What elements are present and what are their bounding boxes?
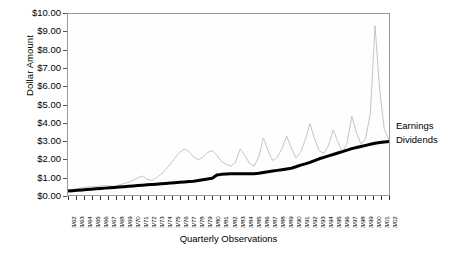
x-axis-tick-label: 3/66 [103,216,109,228]
x-axis-tick-mark [253,196,254,200]
x-axis-tick-label: 3/72 [151,216,157,228]
chart-container: Dollar Amount $0.00$1.00$2.00$3.00$4.00$… [0,0,452,258]
plot-series-svg [68,14,389,195]
x-axis-tick-mark [365,196,366,200]
x-axis-tick-mark [261,196,262,200]
x-axis-tick-label: 3/92 [312,216,318,228]
x-axis-tick-mark [156,196,157,200]
x-axis-tick-label: 3/84 [248,216,254,228]
x-axis-tick-label: 3/83 [240,216,246,228]
x-axis-tick-mark [317,196,318,200]
x-axis-tick-label: 3/95 [336,216,342,228]
y-axis-tick-label: $2.00 [13,154,61,164]
y-axis-tick-mark [63,141,67,142]
y-axis-tick-label: $0.00 [13,191,61,201]
x-axis-tick-label: 3/76 [183,216,189,228]
x-axis-tick-label: 3/98 [360,216,366,228]
x-axis-tick-label: 3/93 [320,216,326,228]
y-axis-tick-label: $10.00 [13,8,61,18]
x-axis-tick-label: 3/70 [135,216,141,228]
x-axis-title: Quarterly Observations [67,233,390,244]
legend-entry-dividends: Dividends [396,133,452,147]
x-axis-tick-label: 3/97 [352,216,358,228]
x-axis-tick-label: 3/78 [199,216,205,228]
x-axis-tick-label: 3/90 [296,216,302,228]
x-axis-tick-label: 3/64 [87,216,93,228]
x-axis-tick-mark [293,196,294,200]
y-axis-tick-mark [63,86,67,87]
x-axis-tick-mark [68,196,69,200]
x-axis-tick-label: 3/68 [119,216,125,228]
x-axis-tick-label: 3/74 [167,216,173,228]
x-axis-tick-label: 3/91 [304,216,310,228]
x-axis-tick-label: 3/00 [376,216,382,228]
x-axis-tick-mark [301,196,302,200]
x-axis-tick-label: 3/87 [272,216,278,228]
x-axis-tick-label: 3/65 [95,216,101,228]
x-axis-tick-mark [124,196,125,200]
x-axis-tick-label: 3/79 [207,216,213,228]
x-axis-tick-label: 3/88 [280,216,286,228]
x-axis-tick-label: 3/94 [328,216,334,228]
x-axis-tick-mark [164,196,165,200]
x-axis-tick-label: 3/86 [264,216,270,228]
x-axis-tick-mark [84,196,85,200]
x-axis-tick-mark [108,196,109,200]
x-axis-tick-mark [373,196,374,200]
series-line-earnings [68,26,389,190]
x-axis-tick-label: 3/77 [191,216,197,228]
y-axis-tick-mark [63,123,67,124]
chart-legend: EarningsDividends [396,119,452,147]
y-axis-tick-mark [63,13,67,14]
y-axis-tick-mark [63,68,67,69]
x-axis-tick-label: 3/02 [392,216,398,228]
x-axis-tick-mark [148,196,149,200]
x-axis-tick-label: 3/89 [288,216,294,228]
y-axis-tick-mark [63,31,67,32]
x-axis-tick-mark [212,196,213,200]
y-axis-tick-mark [63,50,67,51]
x-axis-tick-labels: 3/623/633/643/653/663/673/683/693/703/71… [67,201,390,231]
x-axis-tick-mark [381,196,382,200]
x-axis-tick-label: 3/01 [384,216,390,228]
x-axis-tick-label: 3/67 [111,216,117,228]
x-axis-tick-label: 3/73 [159,216,165,228]
x-axis-tick-label: 3/82 [232,216,238,228]
x-axis-tick-mark [309,196,310,200]
y-axis-tick-mark [63,196,67,197]
x-axis-tick-mark [349,196,350,200]
x-axis-tick-mark [229,196,230,200]
y-axis-tick-mark [63,159,67,160]
x-axis-tick-mark [76,196,77,200]
y-axis-tick-label: $8.00 [13,45,61,55]
y-axis-tick-label: $7.00 [13,63,61,73]
x-axis-tick-label: 3/62 [71,216,77,228]
x-axis-tick-mark [341,196,342,200]
x-axis-tick-mark [188,196,189,200]
x-axis-tick-mark [333,196,334,200]
y-axis-tick-label: $3.00 [13,136,61,146]
x-axis-tick-mark [237,196,238,200]
x-axis-tick-label: 3/80 [215,216,221,228]
y-axis-tick-label: $9.00 [13,26,61,36]
plot-area [67,13,390,196]
x-axis-tick-label: 3/81 [223,216,229,228]
x-axis-tick-label: 3/71 [143,216,149,228]
x-axis-tick-mark [92,196,93,200]
x-axis-tick-mark [269,196,270,200]
x-axis-tick-mark [389,196,390,200]
x-axis-tick-mark [357,196,358,200]
x-axis-tick-label: 3/99 [368,216,374,228]
x-axis-tick-mark [196,196,197,200]
x-axis-tick-label: 3/75 [175,216,181,228]
y-axis-tick-mark [63,105,67,106]
x-axis-tick-mark [180,196,181,200]
x-axis-tick-mark [220,196,221,200]
x-axis-tick-mark [204,196,205,200]
x-axis-tick-mark [277,196,278,200]
y-axis-tick-label: $4.00 [13,118,61,128]
x-axis-tick-label: 3/96 [344,216,350,228]
legend-entry-earnings: Earnings [396,119,452,133]
x-axis-tick-mark [100,196,101,200]
x-axis-tick-mark [325,196,326,200]
